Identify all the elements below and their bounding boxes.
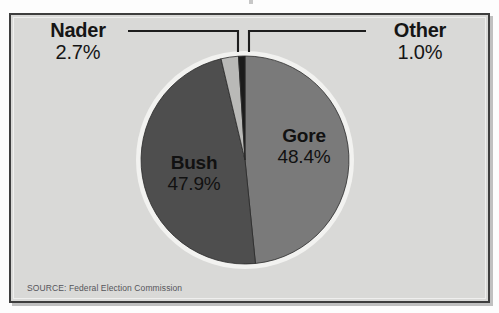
slice-label-gore: Gore 48.4%	[252, 126, 356, 167]
slice-label-bush: Bush 47.9%	[142, 153, 246, 194]
leader-lines	[128, 31, 366, 52]
slice-label-gore-name: Gore	[252, 126, 356, 146]
slice-label-other-value: 1.0%	[368, 42, 472, 63]
slice-label-other: Other 1.0%	[368, 20, 472, 63]
leader-line-nader	[128, 31, 238, 52]
leader-line-other	[249, 31, 366, 52]
source-note: SOURCE: Federal Election Commission	[27, 283, 182, 293]
slice-label-nader-name: Nader	[26, 20, 130, 41]
slice-label-gore-value: 48.4%	[252, 147, 356, 167]
chart-screenshot: Nader 2.7% Other 1.0% Gore 48.4% Bush 47…	[0, 0, 499, 313]
slice-label-nader: Nader 2.7%	[26, 20, 130, 63]
slice-label-bush-name: Bush	[142, 153, 246, 173]
slice-label-nader-value: 2.7%	[26, 42, 130, 63]
slice-label-other-name: Other	[368, 20, 472, 41]
slice-label-bush-value: 47.9%	[142, 174, 246, 194]
